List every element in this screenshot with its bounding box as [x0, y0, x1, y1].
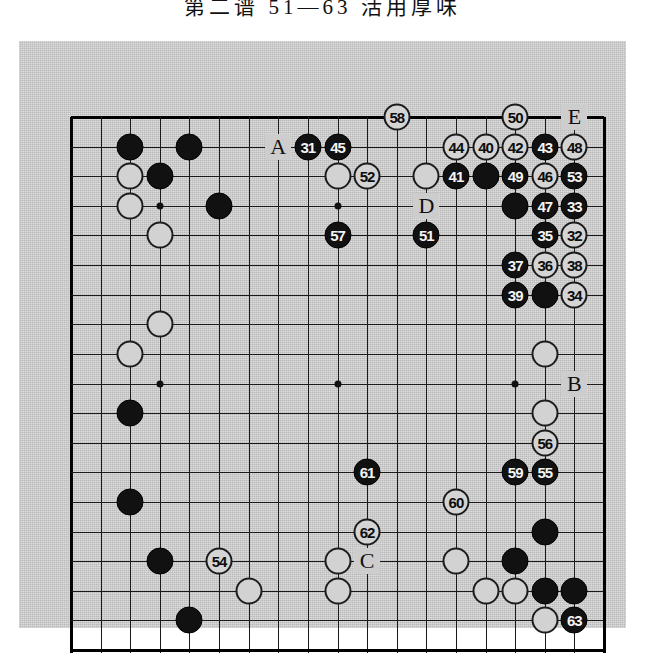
move-53: 53: [561, 163, 588, 190]
black-stone: [502, 548, 529, 575]
move-43: 43: [531, 133, 558, 160]
move-63: 63: [561, 607, 588, 634]
move-60: 60: [442, 488, 469, 515]
move-34: 34: [561, 281, 588, 308]
white-stone: [235, 577, 262, 604]
black-stone: [146, 163, 173, 190]
white-stone: [146, 222, 173, 249]
grid-line-horizontal: [71, 502, 604, 503]
grid-line-horizontal: [71, 649, 604, 652]
black-stone: [531, 577, 558, 604]
black-stone: [117, 488, 144, 515]
move-54: 54: [206, 548, 233, 575]
black-stone: [176, 133, 203, 160]
star-point: [512, 380, 519, 387]
black-stone: [206, 192, 233, 219]
white-stone: [324, 163, 351, 190]
grid-line-horizontal: [71, 532, 604, 533]
move-32: 32: [561, 222, 588, 249]
black-stone: [561, 577, 588, 604]
grid-line-vertical: [249, 117, 250, 653]
move-39: 39: [502, 281, 529, 308]
white-stone: [531, 340, 558, 367]
star-point: [334, 202, 341, 209]
grid-line-vertical: [603, 117, 606, 653]
white-stone: [117, 163, 144, 190]
black-stone: [502, 192, 529, 219]
white-stone: [442, 548, 469, 575]
move-45: 45: [324, 133, 351, 160]
move-56: 56: [531, 429, 558, 456]
point-label-C: C: [354, 548, 380, 574]
move-58: 58: [383, 104, 410, 131]
point-label-A: A: [265, 134, 291, 160]
white-stone: [502, 577, 529, 604]
move-50: 50: [502, 104, 529, 131]
move-47: 47: [531, 192, 558, 219]
move-61: 61: [354, 459, 381, 486]
move-57: 57: [324, 222, 351, 249]
black-stone: [117, 400, 144, 427]
move-52: 52: [354, 163, 381, 190]
black-stone: [472, 163, 499, 190]
star-point: [334, 380, 341, 387]
grid-line-vertical: [308, 117, 309, 653]
black-stone: [531, 281, 558, 308]
white-stone: [324, 577, 351, 604]
star-point: [156, 380, 163, 387]
move-46: 46: [531, 163, 558, 190]
board-grid: ABCDE31323334353637383940414243444546474…: [71, 117, 604, 653]
white-stone: [531, 607, 558, 634]
move-48: 48: [561, 133, 588, 160]
move-42: 42: [502, 133, 529, 160]
point-label-E: E: [561, 104, 587, 130]
move-55: 55: [531, 459, 558, 486]
grid-line-vertical: [278, 117, 279, 653]
grid-line-vertical: [101, 117, 102, 653]
white-stone: [117, 192, 144, 219]
point-label-B: B: [561, 371, 587, 397]
white-stone: [413, 163, 440, 190]
grid-line-vertical: [189, 117, 190, 653]
grid-line-vertical: [70, 117, 73, 653]
grid-line-horizontal: [71, 413, 604, 414]
move-37: 37: [502, 252, 529, 279]
move-51: 51: [413, 222, 440, 249]
white-stone: [531, 400, 558, 427]
move-38: 38: [561, 252, 588, 279]
move-40: 40: [472, 133, 499, 160]
white-stone: [324, 548, 351, 575]
white-stone: [472, 577, 499, 604]
move-35: 35: [531, 222, 558, 249]
move-41: 41: [442, 163, 469, 190]
point-label-D: D: [413, 193, 439, 219]
move-59: 59: [502, 459, 529, 486]
move-36: 36: [531, 252, 558, 279]
grid-line-horizontal: [71, 443, 604, 444]
move-31: 31: [294, 133, 321, 160]
move-62: 62: [354, 518, 381, 545]
black-stone: [176, 607, 203, 634]
black-stone: [146, 548, 173, 575]
black-stone: [531, 518, 558, 545]
go-board[interactable]: ABCDE31323334353637383940414243444546474…: [19, 41, 626, 628]
move-44: 44: [442, 133, 469, 160]
figure-title: 第二谱 51—63 活用厚味: [0, 0, 645, 24]
grid-line-horizontal: [71, 620, 604, 621]
star-point: [156, 202, 163, 209]
move-33: 33: [561, 192, 588, 219]
white-stone: [146, 311, 173, 338]
grid-line-vertical: [397, 117, 398, 653]
move-49: 49: [502, 163, 529, 190]
white-stone: [117, 340, 144, 367]
grid-line-vertical: [486, 117, 487, 653]
black-stone: [117, 133, 144, 160]
